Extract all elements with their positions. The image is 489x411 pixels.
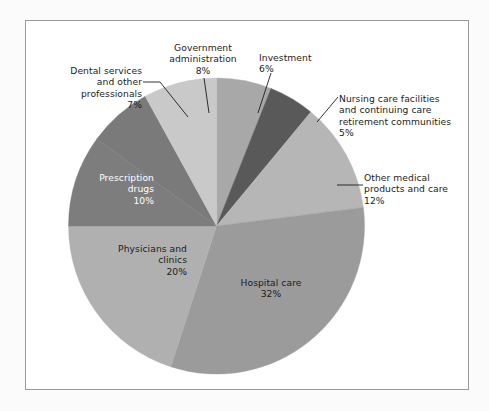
slice-label-other-medical-products: Other medical products and care 12% [364, 172, 476, 206]
figure-root: Dental services and other professionals … [0, 0, 489, 411]
slice-label-prescription-drugs: Prescription drugs 10% [78, 172, 154, 206]
slice-label-hospital-care: Hospital care 32% [222, 277, 320, 300]
slice-label-investment: Investment 6% [259, 52, 337, 75]
leader-line-nursing [317, 97, 338, 122]
slice-label-dental-services: Dental services and other professionals … [38, 65, 142, 111]
slice-label-government-administration: Government administration 8% [150, 42, 256, 76]
slice-label-physicians-and-clinics: Physicians and clinics 20% [87, 243, 187, 277]
slice-label-nursing-care: Nursing care facilities and continuing c… [339, 93, 485, 139]
pie-slice-group [68, 78, 364, 374]
